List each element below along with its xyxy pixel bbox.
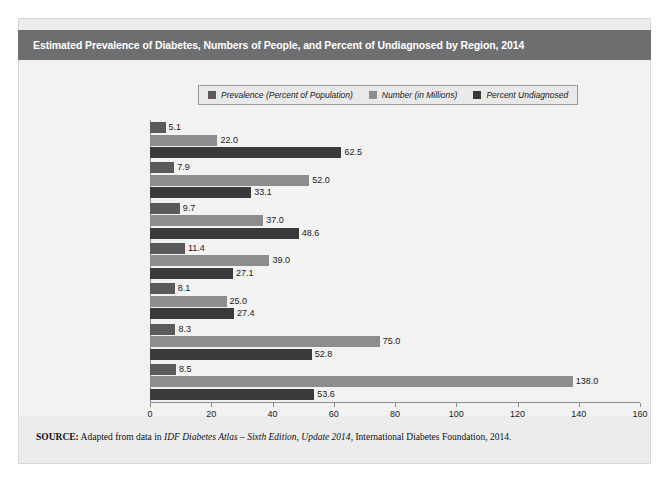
x-axis-tick bbox=[395, 403, 396, 407]
bar[interactable] bbox=[150, 296, 227, 307]
bar-value-label: 11.4 bbox=[188, 243, 205, 254]
bar-value-label: 75.0 bbox=[383, 336, 401, 347]
x-axis-tick-label: 20 bbox=[206, 409, 216, 419]
legend-label: Percent Undiagnosed bbox=[486, 90, 568, 100]
source-text-part1: Adapted from data in bbox=[79, 432, 164, 442]
bar-group: 8.5138.053.6Western Pacific bbox=[150, 362, 640, 402]
legend-swatch-icon bbox=[473, 91, 481, 99]
x-axis-tick-label: 80 bbox=[390, 409, 400, 419]
bar[interactable] bbox=[150, 308, 234, 319]
x-axis-tick-label: 0 bbox=[147, 409, 152, 419]
bar-value-label: 8.3 bbox=[178, 324, 191, 335]
bar-value-label: 52.8 bbox=[315, 349, 333, 360]
x-axis-tick-label: 100 bbox=[449, 409, 464, 419]
legend-item: Percent Undiagnosed bbox=[473, 90, 568, 100]
chart-title: Estimated Prevalence of Diabetes, Number… bbox=[18, 39, 524, 51]
bar-value-label: 5.1 bbox=[169, 122, 182, 133]
bar[interactable] bbox=[150, 203, 180, 214]
bar-group: 11.439.027.1North America and Caribbean bbox=[150, 241, 640, 281]
chart-legend: Prevalence (Percent of Population)Number… bbox=[198, 85, 578, 105]
figure-container: Estimated Prevalence of Diabetes, Number… bbox=[0, 0, 669, 482]
bar-value-label: 62.5 bbox=[344, 147, 362, 158]
bar[interactable] bbox=[150, 283, 175, 294]
bar[interactable] bbox=[150, 376, 573, 387]
bar-value-label: 7.9 bbox=[177, 162, 190, 173]
bar-value-label: 8.1 bbox=[178, 283, 191, 294]
bar[interactable] bbox=[150, 215, 263, 226]
x-axis-tick bbox=[518, 403, 519, 407]
legend-item: Prevalence (Percent of Population) bbox=[208, 90, 353, 100]
x-axis-tick bbox=[150, 403, 151, 407]
bar[interactable] bbox=[150, 243, 185, 254]
legend-swatch-icon bbox=[208, 91, 216, 99]
x-axis-tick-label: 160 bbox=[632, 409, 647, 419]
bar[interactable] bbox=[150, 162, 174, 173]
bar-value-label: 25.0 bbox=[230, 296, 248, 307]
bar[interactable] bbox=[150, 268, 233, 279]
chart-title-bar: Estimated Prevalence of Diabetes, Number… bbox=[18, 30, 651, 60]
chart-plot-area: 0204060801001201401605.122.062.5Africa7.… bbox=[150, 120, 640, 402]
bar-group: 8.125.027.4South and Central America bbox=[150, 281, 640, 321]
bar[interactable] bbox=[150, 336, 380, 347]
bar-group: 8.375.052.8South-East Asia bbox=[150, 321, 640, 361]
bar-value-label: 27.1 bbox=[236, 268, 254, 279]
bar[interactable] bbox=[150, 175, 309, 186]
x-axis-tick bbox=[640, 403, 641, 407]
bar[interactable] bbox=[150, 135, 217, 146]
x-axis-tick bbox=[273, 403, 274, 407]
legend-label: Number (in Millions) bbox=[382, 90, 458, 100]
bar[interactable] bbox=[150, 324, 175, 335]
bar-value-label: 39.0 bbox=[272, 255, 290, 266]
bar-value-label: 52.0 bbox=[312, 175, 330, 186]
x-axis-tick bbox=[456, 403, 457, 407]
bar-value-label: 27.4 bbox=[237, 308, 255, 319]
bar-value-label: 8.5 bbox=[179, 364, 192, 375]
bar[interactable] bbox=[150, 364, 176, 375]
x-axis-tick-label: 40 bbox=[267, 409, 277, 419]
x-axis-tick bbox=[211, 403, 212, 407]
bar[interactable] bbox=[150, 147, 341, 158]
source-text-part2: , International Diabetes Foundation, 201… bbox=[351, 432, 512, 442]
x-axis-tick-label: 60 bbox=[329, 409, 339, 419]
bar-value-label: 33.1 bbox=[254, 187, 272, 198]
bar-group: 7.952.033.1Europe bbox=[150, 160, 640, 200]
bar[interactable] bbox=[150, 389, 314, 400]
bar-value-label: 9.7 bbox=[183, 203, 196, 214]
bar[interactable] bbox=[150, 255, 269, 266]
bar[interactable] bbox=[150, 228, 299, 239]
x-axis-tick bbox=[579, 403, 580, 407]
bar-value-label: 37.0 bbox=[266, 215, 284, 226]
bar[interactable] bbox=[150, 187, 251, 198]
bar-value-label: 138.0 bbox=[576, 376, 599, 387]
legend-swatch-icon bbox=[369, 91, 377, 99]
bar-group: 5.122.062.5Africa bbox=[150, 120, 640, 160]
source-label: SOURCE: bbox=[36, 432, 79, 442]
bar-value-label: 53.6 bbox=[317, 389, 335, 400]
legend-label: Prevalence (Percent of Population) bbox=[221, 90, 353, 100]
x-axis-tick-label: 120 bbox=[510, 409, 525, 419]
legend-item: Number (in Millions) bbox=[369, 90, 458, 100]
source-citation-title: IDF Diabetes Atlas – Sixth Edition, Upda… bbox=[164, 432, 351, 442]
x-axis-tick-label: 140 bbox=[571, 409, 586, 419]
source-note: SOURCE: Adapted from data in IDF Diabete… bbox=[36, 432, 636, 442]
bar-value-label: 48.6 bbox=[302, 228, 320, 239]
bar-group: 9.737.048.6Middle East and North Africa bbox=[150, 201, 640, 241]
bar-value-label: 22.0 bbox=[220, 135, 238, 146]
bar[interactable] bbox=[150, 349, 312, 360]
bar[interactable] bbox=[150, 122, 166, 133]
x-axis-tick bbox=[334, 403, 335, 407]
